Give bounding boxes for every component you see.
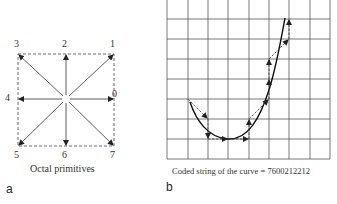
direction-label-3: 3 xyxy=(14,38,19,49)
curve xyxy=(190,18,285,139)
direction-label-2: 2 xyxy=(62,38,67,49)
direction-label-0: 0 xyxy=(112,88,117,99)
direction-label-4: 4 xyxy=(5,92,10,103)
direction-5-arrow xyxy=(19,102,63,145)
panel-b-caption: Coded string of the curve = 7600212212 xyxy=(172,166,310,176)
panel-b-label: b xyxy=(166,180,173,194)
panel-a-caption: Octal primitives xyxy=(30,163,95,174)
panel-a-label: a xyxy=(6,182,13,196)
direction-3-arrow xyxy=(19,55,63,96)
direction-label-5: 5 xyxy=(14,149,19,160)
direction-label-6: 6 xyxy=(62,149,67,160)
direction-label-7: 7 xyxy=(110,149,115,160)
chain-code-grid xyxy=(167,0,330,159)
chain-code-arrows xyxy=(188,20,289,139)
direction-label-1: 1 xyxy=(110,38,115,49)
direction-7-arrow xyxy=(69,102,113,145)
octal-primitives-figure xyxy=(18,54,114,146)
direction-1-arrow xyxy=(69,55,113,96)
